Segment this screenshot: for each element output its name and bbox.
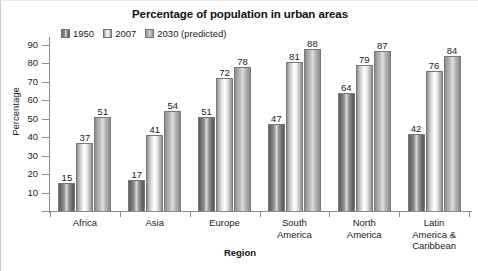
bar: 81 xyxy=(286,62,303,211)
x-axis-tick xyxy=(190,211,191,217)
y-axis-tick xyxy=(42,137,49,138)
bar: 51 xyxy=(94,117,111,211)
y-axis-tick-label: 20 xyxy=(0,168,38,179)
bar: 17 xyxy=(128,180,145,211)
y-axis-tick-label: 50 xyxy=(0,113,38,124)
y-axis-line xyxy=(49,37,50,213)
bar-value-label: 79 xyxy=(358,54,371,65)
legend-swatch-2007 xyxy=(103,29,112,38)
legend-swatch-2030 xyxy=(145,29,154,38)
bar: 51 xyxy=(198,117,215,211)
bar-group: 427684 xyxy=(408,37,461,211)
y-axis-tick xyxy=(42,63,49,64)
y-axis-tick-label: 10 xyxy=(0,187,38,198)
bar-value-label: 78 xyxy=(236,56,249,67)
bar-value-label: 51 xyxy=(97,106,110,117)
x-axis-title: Region xyxy=(1,247,478,258)
x-axis-tick xyxy=(399,211,400,217)
bar-value-label: 47 xyxy=(270,113,283,124)
bar-value-label: 15 xyxy=(61,172,74,183)
legend-entry-1950: 1950 xyxy=(61,28,94,39)
legend-entry-2030: 2030 (predicted) xyxy=(145,28,226,39)
bar-value-label: 88 xyxy=(306,38,319,49)
chart-title: Percentage of population in urban areas xyxy=(1,8,478,20)
bar-group: 517278 xyxy=(198,37,251,211)
bar-value-label: 37 xyxy=(79,132,92,143)
bar-value-label: 42 xyxy=(410,123,423,134)
bar: 42 xyxy=(408,134,425,211)
bar-group: 647987 xyxy=(338,37,391,211)
bar: 15 xyxy=(58,183,75,211)
x-axis-tick xyxy=(120,211,121,217)
y-axis-tick xyxy=(42,193,49,194)
bar-value-label: 54 xyxy=(166,100,179,111)
bar: 78 xyxy=(234,67,251,211)
y-axis-tick xyxy=(42,119,49,120)
y-axis-tick xyxy=(42,100,49,101)
bar: 87 xyxy=(374,51,391,211)
bar-group: 153751 xyxy=(58,37,111,211)
y-axis-tick-label: 30 xyxy=(0,150,38,161)
bar: 47 xyxy=(268,124,285,211)
legend-swatch-1950 xyxy=(61,29,70,38)
bar-value-label: 41 xyxy=(148,124,161,135)
y-axis-tick-label: 60 xyxy=(0,94,38,105)
bar-value-label: 51 xyxy=(200,106,213,117)
chart-legend: 1950 2007 2030 (predicted) xyxy=(61,28,226,39)
bar-value-label: 72 xyxy=(218,67,231,78)
bar-value-label: 81 xyxy=(288,51,301,62)
x-axis-tick xyxy=(50,211,51,217)
bar: 72 xyxy=(216,78,233,211)
y-axis-tick-label: 80 xyxy=(0,57,38,68)
bar-value-label: 17 xyxy=(130,169,143,180)
x-axis-tick xyxy=(260,211,261,217)
y-axis-tick xyxy=(42,45,49,46)
y-axis-tick-label: 90 xyxy=(0,39,38,50)
y-axis-tick xyxy=(42,174,49,175)
bar: 88 xyxy=(304,49,321,211)
bar-group: 478188 xyxy=(268,37,321,211)
bar: 41 xyxy=(146,135,163,211)
bar-value-label: 87 xyxy=(376,40,389,51)
bar: 64 xyxy=(338,93,355,211)
x-axis-line xyxy=(42,211,472,212)
x-axis-tick xyxy=(329,211,330,217)
bar: 84 xyxy=(444,56,461,211)
bar-value-label: 76 xyxy=(428,60,441,71)
y-axis-tick xyxy=(42,82,49,83)
legend-label-2030: 2030 (predicted) xyxy=(157,28,226,39)
bar-group: 174154 xyxy=(128,37,181,211)
x-axis-tick xyxy=(469,211,470,217)
bar-chart: Percentage of population in urban areas … xyxy=(0,0,478,271)
y-axis-tick-label: 40 xyxy=(0,131,38,142)
y-axis-tick xyxy=(42,156,49,157)
legend-label-1950: 1950 xyxy=(73,28,94,39)
legend-entry-2007: 2007 xyxy=(103,28,136,39)
bar: 79 xyxy=(356,65,373,211)
bar: 54 xyxy=(164,111,181,211)
y-axis-tick-label: 70 xyxy=(0,76,38,87)
bar-value-label: 64 xyxy=(340,82,353,93)
bar-value-label: 84 xyxy=(446,45,459,56)
bar: 76 xyxy=(426,71,443,211)
legend-label-2007: 2007 xyxy=(115,28,136,39)
bar: 37 xyxy=(76,143,93,211)
